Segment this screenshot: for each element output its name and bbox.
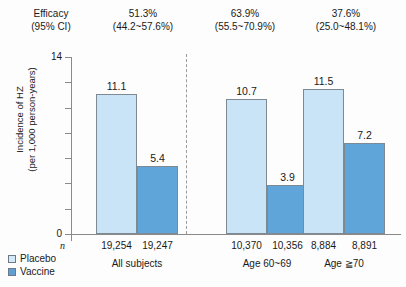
chart-legend: Placebo Vaccine [8,252,56,278]
y-axis-tick [65,158,71,159]
efficacy-row-label: Efficacy (95% CI) [8,8,94,33]
sample-size-placebo-group-1: 19,254 [96,240,137,251]
y-axis-line [71,57,72,241]
bar-placebo-group-2[interactable] [226,99,267,234]
bar-value-label-vaccine-group-3: 7.2 [344,129,385,141]
y-axis-tick [65,183,71,184]
efficacy-ci-2: (55.5~70.9%) [202,21,288,34]
category-label-group-1: All subjects [96,258,178,269]
legend-swatch-vaccine-icon [8,268,16,276]
efficacy-percent-3: 37.6% [300,8,392,21]
bar-placebo-group-3[interactable] [303,89,344,234]
y-axis-title: Incidence of HZ (per 1,000 person-years) [14,50,37,190]
efficacy-label-line1: Efficacy [8,8,94,21]
efficacy-ci-3: (25.0~48.1%) [300,21,392,34]
bar-value-label-vaccine-group-2: 3.9 [267,171,308,183]
legend-label-vaccine: Vaccine [20,265,55,278]
efficacy-ci-1: (44.2~57.6%) [100,21,186,34]
bar-placebo-group-1[interactable] [96,94,137,234]
efficacy-percent-2: 63.9% [202,8,288,21]
sample-size-placebo-group-3: 8,884 [303,240,344,251]
bar-value-label-placebo-group-2: 10.7 [226,85,267,97]
y-axis-title-line2: (per 1,000 person-years) [25,50,37,190]
y-axis-tick [65,209,71,210]
legend-swatch-placebo-icon [8,255,16,263]
efficacy-header-row: Efficacy (95% CI) 51.3% (44.2~57.6%) 63.… [0,8,406,42]
efficacy-value-group-2: 63.9% (55.5~70.9%) [202,8,288,33]
efficacy-label-line2: (95% CI) [8,21,94,34]
bar-value-label-placebo-group-1: 11.1 [96,80,137,92]
bar-vaccine-group-2[interactable] [267,185,308,234]
efficacy-value-group-1: 51.3% (44.2~57.6%) [100,8,186,33]
plot-area: Incidence of HZ (per 1,000 person-years)… [0,50,406,240]
sample-size-vaccine-group-2: 10,356 [267,240,308,251]
category-label-group-3: Age ≧70 [303,258,385,269]
y-axis-tick [65,133,71,134]
y-axis-title-line1: Incidence of HZ [14,50,26,190]
bar-value-label-vaccine-group-1: 5.4 [137,152,178,164]
hz-incidence-bar-chart: Efficacy (95% CI) 51.3% (44.2~57.6%) 63.… [0,0,406,287]
efficacy-value-group-3: 37.6% (25.0~48.1%) [300,8,392,33]
legend-label-placebo: Placebo [20,252,56,265]
group-divider [186,54,187,234]
bar-vaccine-group-3[interactable] [344,143,385,234]
sample-size-vaccine-group-1: 19,247 [137,240,178,251]
y-axis-tick [65,108,71,109]
y-axis-tick [65,57,71,58]
y-tick-label-14: 14 [34,51,62,62]
sample-size-symbol: n [60,240,65,251]
sample-size-vaccine-group-3: 8,891 [344,240,385,251]
y-axis-tick [65,82,71,83]
bottom-annotations: n 19,25419,24710,37010,3568,8848,891 All… [0,234,406,287]
bar-value-label-placebo-group-3: 11.5 [303,75,344,87]
legend-item-vaccine[interactable]: Vaccine [8,265,56,278]
efficacy-percent-1: 51.3% [100,8,186,21]
category-label-group-2: Age 60~69 [226,258,308,269]
bar-vaccine-group-1[interactable] [137,166,178,234]
legend-item-placebo[interactable]: Placebo [8,252,56,265]
sample-size-placebo-group-2: 10,370 [226,240,267,251]
